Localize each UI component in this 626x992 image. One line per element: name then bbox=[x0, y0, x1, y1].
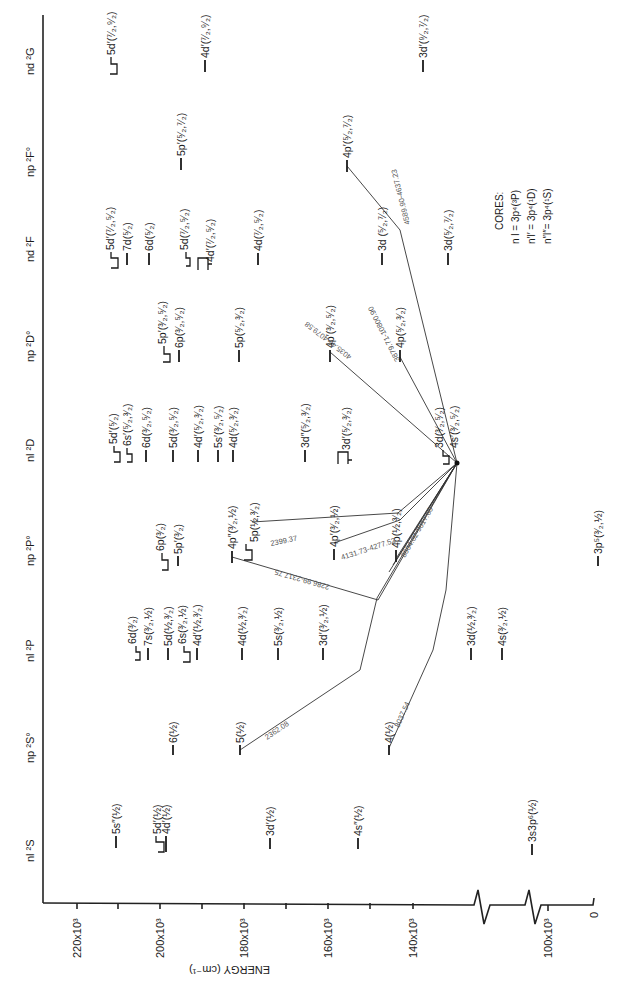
level-label: 5p′(³⁄₂,⁵⁄₂) bbox=[156, 301, 168, 344]
level-label: 3d(³⁄₂,⁵⁄₂) bbox=[433, 407, 445, 448]
level-label: 3d(⁵⁄₂,⁷⁄₂) bbox=[442, 210, 454, 251]
legend-entry: n″l″= 3p⁴(¹S) bbox=[542, 188, 553, 244]
level-label: 4p′(³⁄₂,⁵⁄₂) bbox=[324, 305, 336, 348]
level-label: 4s(³⁄₂,½) bbox=[496, 607, 508, 646]
ground-state-node bbox=[455, 461, 460, 466]
transition-line bbox=[389, 463, 457, 748]
level-label: 3d′(⁹⁄₂,⁷⁄₂) bbox=[417, 14, 429, 58]
level-label: 4d(½,³⁄₂) bbox=[236, 606, 248, 646]
level-label: 4(½) bbox=[383, 721, 395, 743]
level-label: 4d′(½) bbox=[160, 805, 172, 834]
level-label: 4s′(³⁄₂,⁵⁄₂) bbox=[448, 406, 460, 448]
level-label: 6(½) bbox=[167, 721, 179, 743]
transition-line bbox=[240, 463, 457, 750]
column-label-p: nl ²P bbox=[24, 639, 36, 662]
transition-line bbox=[232, 463, 457, 600]
level-label: 6p(³⁄₂) bbox=[154, 523, 166, 551]
energy-level-diagram: 220x10³ 200x10³ 180x10³ 160x10³ 140x10³ … bbox=[0, 0, 626, 992]
cores-legend: CORES: n l = 3p⁴(³P) n′l′ = 3p⁴(¹D) n″l″… bbox=[494, 188, 553, 244]
transition-labels: 2362.08 8037.54 2286.99-2317.75 2399.37 … bbox=[263, 168, 435, 741]
legend-title: CORES: bbox=[494, 192, 505, 230]
level-label: 5d(⁷⁄₂,⁵⁄₂) bbox=[178, 209, 190, 250]
level-label: 3d″(⁵⁄₂,³⁄₂) bbox=[299, 403, 311, 448]
column-label-ppo: np ²P° bbox=[24, 535, 36, 566]
level-label: 5p′(³⁄₂) bbox=[172, 524, 184, 554]
tick-label-0: 0 bbox=[588, 912, 600, 918]
level-label: 3d(½,³⁄₂) bbox=[465, 606, 477, 646]
level-label: 4s″(½) bbox=[352, 805, 364, 836]
level-bracket bbox=[156, 836, 164, 852]
level-bracket bbox=[110, 57, 117, 74]
level-label: 3d′(⁵⁄₂,³⁄₂) bbox=[340, 407, 352, 450]
tick-labels: 220x10³ 200x10³ 180x10³ 160x10³ 140x10³ … bbox=[71, 912, 600, 976]
level-label: 4p′(⁵⁄₂,⁷⁄₂) bbox=[341, 115, 353, 158]
transition-label: 2286.99-2317.75 bbox=[274, 567, 331, 591]
level-label: 4d′(⁷⁄₂,⁵⁄₂) bbox=[204, 219, 216, 262]
column-label-dpo: np ²D° bbox=[24, 331, 36, 362]
level-label: 5s″(½) bbox=[110, 803, 122, 834]
transition-label: 4589.90-4637.23 bbox=[389, 168, 411, 225]
column-label-d: nl ²D bbox=[24, 439, 36, 462]
energy-axis bbox=[43, 890, 594, 924]
level-bracket bbox=[244, 544, 252, 560]
level-bracket bbox=[338, 452, 352, 464]
transition-label: 8037.54 bbox=[393, 700, 412, 728]
axes bbox=[43, 15, 594, 924]
column-s-levels: 5s″(½) 5d′(½) 4d′(½) 3d′(½) 4s″(½) 3s3p⁶… bbox=[110, 799, 538, 855]
tick-label-180: 180x10³ bbox=[238, 918, 250, 958]
column-label-fpo: np ²F° bbox=[24, 147, 36, 177]
level-label: 5p′(⁵⁄₂,⁷⁄₂) bbox=[175, 113, 187, 156]
level-label: 5p(½,³⁄₂) bbox=[248, 502, 260, 542]
column-d-levels: 5d′(⁵⁄₂) 6s′(⁵⁄₂,³⁄₂) 6d(³⁄₂,⁵⁄₂) 5d(³⁄₂… bbox=[107, 403, 460, 464]
level-bracket bbox=[135, 646, 140, 660]
level-bracket bbox=[163, 346, 170, 362]
level-label: 6s(³⁄₂,½) bbox=[176, 605, 188, 644]
level-label: 5d′(⁷⁄₂,⁵⁄₂) bbox=[104, 207, 116, 250]
tick-label-100: 100x10³ bbox=[542, 918, 554, 958]
level-label: 6d(³⁄₂) bbox=[126, 616, 138, 644]
tick-label-200: 200x10³ bbox=[154, 918, 166, 958]
level-label: 6p(³⁄₂,⁵⁄₂) bbox=[173, 307, 185, 348]
axis-title: ENERGY (cm⁻¹) bbox=[189, 964, 270, 976]
column-fpo-levels: 5p′(⁵⁄₂,⁷⁄₂) 4p′(⁵⁄₂,⁷⁄₂) bbox=[175, 113, 353, 172]
tick-label-160: 160x10³ bbox=[322, 918, 334, 958]
level-label: 7s(³⁄₂,½) bbox=[142, 607, 154, 646]
column-label-g: nd ²G bbox=[24, 47, 36, 75]
level-bracket bbox=[186, 252, 190, 266]
level-bracket bbox=[111, 252, 118, 268]
level-label: 4d′(½,³⁄₂) bbox=[191, 604, 203, 646]
level-label: 6d(³⁄₂,⁵⁄₂) bbox=[140, 407, 152, 448]
level-bracket bbox=[114, 446, 120, 462]
level-label: 3p⁵(³⁄₂,½) bbox=[592, 510, 604, 554]
level-label: 4d′(⁵⁄₂,³⁄₂) bbox=[192, 405, 204, 448]
level-label: 5d′(⁷⁄₂,⁹⁄₂) bbox=[105, 11, 117, 55]
level-label: 4p″(³⁄₂,½) bbox=[226, 506, 238, 549]
level-label: 3s3p⁶(½) bbox=[526, 799, 538, 842]
tick-label-140: 140x10³ bbox=[407, 918, 419, 958]
level-label: 5d′(⁵⁄₂) bbox=[107, 413, 119, 444]
level-label: 4d(⁵⁄₂,³⁄₂) bbox=[227, 407, 239, 448]
level-label: 7d(⁵⁄₂) bbox=[121, 222, 133, 251]
column-labels: nl ²S np ²S° nl ²P np ²P° nl ²D np ²D° n… bbox=[24, 47, 36, 862]
level-bracket bbox=[162, 553, 168, 570]
column-p-levels: 6d(³⁄₂) 7s(³⁄₂,½) 5d(½,³⁄₂) 6s(³⁄₂,½) 4d… bbox=[126, 604, 508, 662]
level-bracket bbox=[183, 646, 190, 662]
tick-label-220: 220x10³ bbox=[71, 918, 83, 958]
level-bracket bbox=[127, 448, 132, 462]
column-label-spo: np ²S° bbox=[24, 732, 36, 763]
level-label: 4p(⁵⁄₂,³⁄₂) bbox=[394, 307, 406, 348]
column-ppo-levels: 6p(³⁄₂) 5p′(³⁄₂) 4p″(³⁄₂,½) 5p(½,³⁄₂) 4p… bbox=[154, 502, 604, 570]
level-label: 5d(½,³⁄₂) bbox=[162, 606, 174, 646]
transition-label: 2362.08 bbox=[263, 719, 291, 742]
level-label: 5s(³⁄₂,½) bbox=[272, 607, 284, 646]
level-label: 3d′(½) bbox=[264, 807, 276, 836]
level-label: 6s′(⁵⁄₂,³⁄₂) bbox=[121, 404, 133, 446]
level-label: 4d(⁷⁄₂,⁵⁄₂) bbox=[252, 210, 264, 251]
column-label-s: nl ²S bbox=[24, 839, 36, 862]
level-label: 4d′(⁷⁄₂,⁹⁄₂) bbox=[199, 14, 211, 58]
level-label: 5(½) bbox=[234, 721, 246, 743]
level-label: 3d (⁵⁄₂,⁷⁄₂) bbox=[376, 207, 388, 251]
transition-label: 2399.37 bbox=[270, 534, 298, 548]
level-label: 4p(½,³⁄₂) bbox=[390, 508, 402, 548]
column-g-levels: 5d′(⁷⁄₂,⁹⁄₂) 4d′(⁷⁄₂,⁹⁄₂) 3d′(⁹⁄₂,⁷⁄₂) bbox=[105, 11, 429, 74]
